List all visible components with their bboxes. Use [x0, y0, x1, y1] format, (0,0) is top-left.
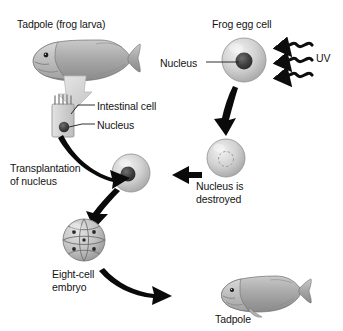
intestinal-cell-icon [52, 95, 74, 137]
curved-block-arrow-icon [99, 268, 172, 305]
uv-wave-arrow-icon [282, 43, 312, 76]
enucleated-egg-cell-icon [207, 139, 245, 177]
eight-cell-embryo-icon [63, 219, 105, 261]
label-tadpole-clone: Tadpole [215, 313, 251, 326]
tadpole-icon [33, 40, 140, 86]
label-intestinal-cell: Intestinal cell [97, 100, 156, 113]
label-eight-cell-embryo: Eight-cell embryo [52, 268, 94, 293]
label-nucleus-is-destroyed: Nucleus is destroyed [196, 180, 243, 205]
egg-cell-icon [222, 38, 266, 82]
label-intestinal-cell-nucleus: Nucleus [97, 119, 134, 132]
label-transplantation-of-nucleus: Transplantation of nucleus [10, 162, 81, 187]
label-frog-egg-cell: Frog egg cell [212, 18, 271, 31]
curved-block-arrow-icon [214, 86, 238, 136]
tadpole-icon [221, 276, 311, 317]
label-egg-nucleus: Nucleus [160, 57, 197, 70]
label-tadpole-frog-larva: Tadpole (frog larva) [17, 18, 105, 31]
egg-cell-with-transplanted-nucleus-icon [112, 154, 150, 192]
label-uv: UV [316, 52, 330, 65]
